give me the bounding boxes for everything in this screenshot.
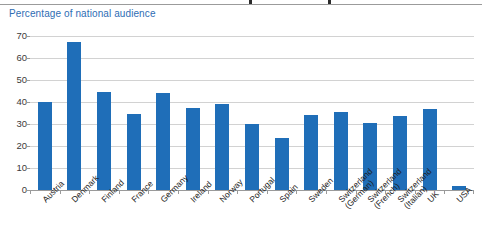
chart-title: Percentage of national audience — [9, 8, 156, 19]
x-tick-mark — [30, 190, 31, 194]
y-tick-label: 70 — [3, 31, 27, 41]
descender-mark — [328, 0, 331, 4]
bar[interactable] — [334, 112, 348, 190]
y-tick-label: 50 — [3, 75, 27, 85]
y-tick-label: 60 — [3, 53, 27, 63]
bar[interactable] — [156, 93, 170, 190]
bar-series — [30, 36, 474, 190]
cropped-headline-descenders — [243, 0, 363, 4]
bar[interactable] — [67, 42, 81, 191]
bar[interactable] — [275, 138, 289, 190]
y-tick-label: 10 — [3, 163, 27, 173]
bar[interactable] — [97, 92, 111, 190]
y-axis: 010203040506070 — [0, 36, 27, 190]
bar[interactable] — [215, 104, 229, 190]
top-divider — [0, 4, 482, 5]
x-axis-labels: AustriaDenmarkFinlandFranceGermanyIrelan… — [0, 196, 482, 251]
y-tick-label: 40 — [3, 97, 27, 107]
bar[interactable] — [38, 102, 52, 190]
bar-chart: Percentage of national audience 01020304… — [0, 0, 482, 251]
descender-mark — [249, 0, 252, 4]
y-tick-label: 30 — [3, 119, 27, 129]
bar[interactable] — [304, 115, 318, 190]
bar[interactable] — [245, 124, 259, 190]
y-tick-label: 20 — [3, 141, 27, 151]
y-tick-label: 0 — [3, 185, 27, 195]
x-tick-mark — [444, 190, 445, 194]
bar[interactable] — [127, 114, 141, 190]
